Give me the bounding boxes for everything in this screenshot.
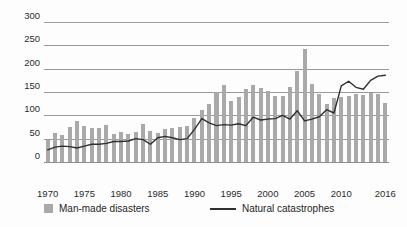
- x-axis-labels: 1970197519801985199019952000200520102016: [44, 0, 389, 227]
- y-axis-tick-label-250: 250: [24, 34, 40, 44]
- line-swatch-icon: [210, 208, 236, 210]
- chart-legend: Man-made disasters Natural catastrophes: [44, 203, 389, 219]
- y-axis-tick-label-0: 0: [35, 151, 40, 161]
- x-axis-tick-label-2010: 2010: [331, 188, 352, 199]
- bar-swatch-icon: [44, 204, 53, 213]
- x-axis-tick-label-1970: 1970: [37, 188, 58, 199]
- y-axis-tick-label-300: 300: [24, 11, 40, 21]
- y-axis-labels: 050100150200250300: [0, 0, 40, 227]
- x-axis-tick-label-2000: 2000: [257, 188, 278, 199]
- x-axis-tick-label-1990: 1990: [184, 188, 205, 199]
- legend-label-man-made-disasters: Man-made disasters: [59, 203, 150, 214]
- x-axis-tick-label-1995: 1995: [221, 188, 242, 199]
- x-axis-tick-label-2005: 2005: [294, 188, 315, 199]
- legend-item-man-made-disasters: Man-made disasters: [44, 203, 150, 214]
- x-axis-tick-label-1975: 1975: [74, 188, 95, 199]
- y-axis-tick-label-150: 150: [24, 81, 40, 91]
- legend-label-natural-catastrophes: Natural catastrophes: [242, 203, 334, 214]
- x-axis-tick-label-1985: 1985: [147, 188, 168, 199]
- y-axis-tick-label-200: 200: [24, 58, 40, 68]
- y-axis-tick-label-100: 100: [24, 104, 40, 114]
- x-axis-tick-label-1980: 1980: [110, 188, 131, 199]
- legend-item-natural-catastrophes: Natural catastrophes: [210, 203, 334, 214]
- y-axis-tick-label-50: 50: [29, 128, 40, 138]
- x-axis-tick-label-2016: 2016: [375, 188, 396, 199]
- chart-container: 050100150200250300 197019751980198519901…: [0, 0, 407, 227]
